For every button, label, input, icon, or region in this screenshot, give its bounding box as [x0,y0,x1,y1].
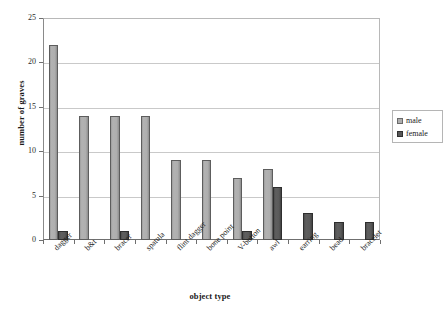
y-tick-label: 10 [2,146,36,155]
y-tick-label: 25 [2,13,36,22]
y-tick-mark [39,62,43,63]
y-tick-mark [39,151,43,152]
x-axis-title: object type [120,291,300,301]
x-tick-mark [104,240,105,244]
y-tick-mark [39,107,43,108]
legend-item-male: male [397,115,422,126]
legend: male female [392,110,443,143]
legend-label-female: female [406,130,428,138]
bar [273,187,282,240]
bar [49,45,58,240]
bar [263,169,272,240]
bar [79,116,88,240]
y-tick-label: 5 [2,191,36,200]
x-tick-mark [257,240,258,244]
x-tick-mark [74,240,75,244]
x-tick-mark [166,240,167,244]
legend-swatch-male-icon [397,118,403,124]
x-tick-mark [319,240,320,244]
legend-item-female: female [397,128,428,139]
x-tick-mark [135,240,136,244]
x-axis-category-label: awl [267,238,282,253]
bar [110,116,119,240]
bar [233,178,242,240]
bars-layer [43,18,380,240]
y-tick-mark [39,18,43,19]
x-tick-mark [227,240,228,244]
x-tick-mark [380,240,381,244]
y-tick-label: 15 [2,102,36,111]
x-tick-mark [288,240,289,244]
y-tick-mark [39,196,43,197]
x-tick-mark [43,240,44,244]
bar-chart: number of graves object type 0510152025 … [0,0,446,315]
legend-label-male: male [406,117,422,125]
legend-swatch-female-icon [397,131,403,137]
x-tick-mark [196,240,197,244]
x-tick-mark [349,240,350,244]
y-tick-label: 0 [2,235,36,244]
bar [141,116,150,240]
bar [171,160,180,240]
y-tick-label: 20 [2,57,36,66]
